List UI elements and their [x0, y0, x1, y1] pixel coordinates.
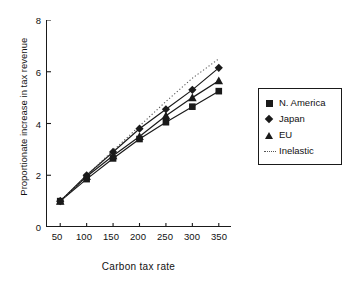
- marker-n-america-6: [215, 88, 222, 95]
- legend-item-japan[interactable]: Japan: [263, 111, 337, 126]
- chart-legend: N. America Japan EU Inelastic: [258, 88, 342, 165]
- legend-label-japan: Japan: [279, 114, 305, 124]
- marker-n-america-4: [163, 119, 170, 126]
- chart-figure: 8 6 4 2 0 Proportionate increase in tax …: [0, 0, 348, 286]
- triangle-marker-icon: [263, 129, 277, 141]
- legend-item-inelastic[interactable]: Inelastic: [263, 143, 337, 158]
- legend-label-eu: EU: [279, 130, 292, 140]
- legend-item-n-america[interactable]: N. America: [263, 95, 337, 110]
- marker-n-america-5: [189, 103, 196, 110]
- marker-eu-4: [162, 111, 171, 119]
- legend-item-eu[interactable]: EU: [263, 127, 337, 142]
- y-axis-title: Proportionate increase in tax revenue: [19, 17, 29, 217]
- legend-label-inelastic: Inelastic: [279, 146, 314, 156]
- y-tick-0: 0: [19, 223, 41, 233]
- legend-label-n-america: N. America: [279, 98, 325, 108]
- marker-eu-6: [214, 77, 223, 85]
- square-marker-icon: [263, 97, 277, 109]
- diamond-marker-icon: [263, 113, 277, 125]
- x-tick-350: 350: [202, 232, 236, 242]
- chart-canvas: [47, 20, 232, 227]
- dotted-line-icon: [263, 145, 277, 157]
- x-axis-title: Carbon tax rate: [46, 262, 231, 272]
- marker-eu-5: [188, 93, 197, 101]
- plot-area: [46, 20, 231, 227]
